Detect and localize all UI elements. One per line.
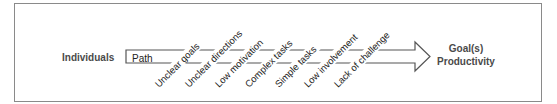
- goal-label: Goal(s): [449, 43, 483, 54]
- path-goal-diagram: Individuals Path Unclear goals Unclear d…: [0, 0, 557, 104]
- source-label: Individuals: [62, 52, 115, 63]
- productivity-label: Productivity: [437, 56, 495, 67]
- obstacle-labels: Unclear goals Unclear directions Low mot…: [152, 23, 395, 90]
- path-label: Path: [132, 53, 153, 64]
